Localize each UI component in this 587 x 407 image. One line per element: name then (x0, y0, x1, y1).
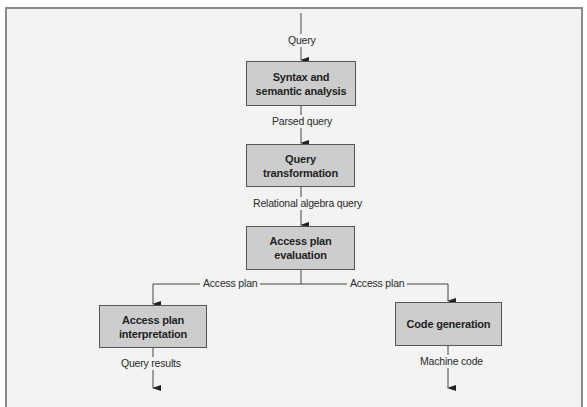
node-label: Code generation (407, 317, 491, 331)
edge-label-relational-algebra-query: Relational algebra query (250, 197, 365, 210)
node-access-plan-evaluation: Access plan evaluation (246, 226, 355, 270)
edge-label-query: Query (285, 34, 319, 47)
edge-label-access-plan-left: Access plan (200, 277, 260, 290)
node-access-plan-interpretation: Access plan interpretation (99, 305, 207, 348)
node-label: Syntax and semantic analysis (253, 70, 349, 98)
node-code-generation: Code generation (395, 302, 502, 346)
node-label: Access plan interpretation (112, 313, 194, 341)
edge-label-query-results: Query results (118, 357, 184, 370)
node-label: Access plan evaluation (265, 234, 336, 262)
node-label: Query transformation (253, 152, 348, 180)
node-syntax-semantic-analysis: Syntax and semantic analysis (246, 61, 356, 106)
node-query-transformation: Query transformation (246, 144, 355, 187)
edge-label-access-plan-right: Access plan (347, 277, 407, 290)
edge-label-parsed-query: Parsed query (269, 115, 335, 128)
edge-label-machine-code: Machine code (417, 355, 486, 368)
